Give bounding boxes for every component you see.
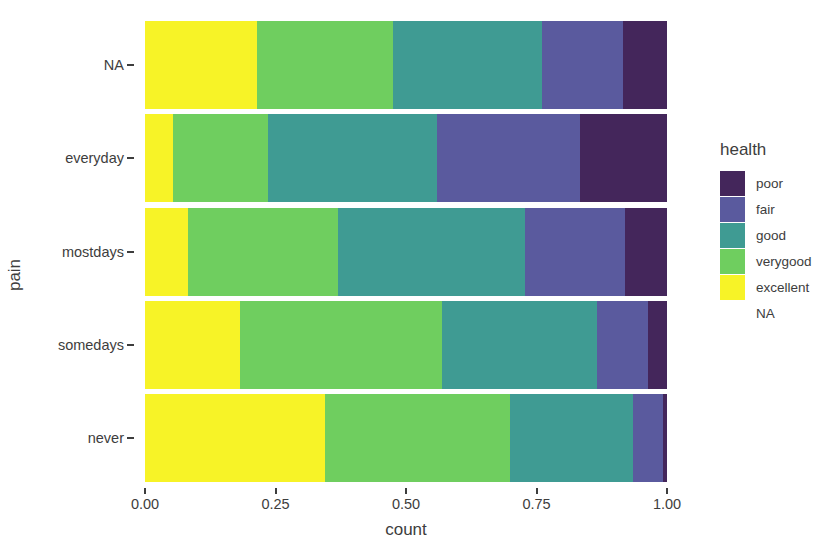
legend-item-good[interactable]: good (700, 222, 825, 248)
bar-segment-good (338, 208, 525, 296)
y-tick-mark (127, 251, 134, 253)
legend-title: health (720, 140, 825, 160)
bar-segment-verygood (240, 301, 442, 389)
legend-items: poorfairgoodverygoodexcellentNA (700, 170, 825, 326)
y-tick-mark (127, 344, 134, 346)
bar-segment-good (393, 21, 542, 109)
bar-segment-good (268, 114, 437, 202)
legend-label-na: NA (756, 306, 775, 321)
y-tick-mark (127, 437, 134, 439)
stacked-bar-na (145, 21, 667, 109)
x-tick-label: 1.00 (653, 496, 681, 512)
bar-segment-poor (648, 301, 667, 389)
bar-segment-fair (542, 21, 623, 109)
legend-label-poor: poor (756, 176, 783, 191)
chart-figure: pain NAeverydaymostdayssomedaysnever 0.0… (0, 0, 829, 550)
x-tick-mark (536, 488, 538, 494)
bar-segment-excellent (145, 114, 173, 202)
bar-segment-fair (437, 114, 580, 202)
y-tick-label-na: NA (104, 57, 124, 73)
bar-segment-excellent (145, 208, 188, 296)
bar-segment-poor (623, 21, 667, 109)
legend-swatch-na (720, 301, 745, 326)
bar-segment-fair (633, 394, 663, 482)
legend-label-excellent: excellent (756, 280, 809, 295)
bar-segment-excellent (145, 301, 240, 389)
legend: health poorfairgoodverygoodexcellentNA (700, 140, 825, 326)
legend-label-fair: fair (756, 202, 775, 217)
y-axis-tick-labels: NAeverydaymostdayssomedaysnever (28, 18, 134, 485)
x-tick-label: 0.75 (522, 496, 550, 512)
x-tick-mark (275, 488, 277, 494)
x-tick-label: 0.00 (131, 496, 159, 512)
legend-swatch-fair (720, 197, 745, 222)
bar-segment-good (510, 394, 633, 482)
bar-segment-excellent (145, 21, 257, 109)
legend-item-poor[interactable]: poor (700, 170, 825, 196)
bar-segment-poor (580, 114, 667, 202)
x-tick-mark (405, 488, 407, 494)
bar-segment-verygood (257, 21, 393, 109)
x-axis: 0.000.250.500.751.00 (145, 485, 667, 525)
legend-swatch-poor (720, 171, 745, 196)
bar-segment-fair (597, 301, 648, 389)
bar-segment-verygood (173, 114, 268, 202)
legend-swatch-verygood (720, 249, 745, 274)
x-axis-title: count (145, 520, 667, 540)
legend-item-fair[interactable]: fair (700, 196, 825, 222)
stacked-bar-mostdays (145, 208, 667, 296)
x-tick-mark (144, 488, 146, 494)
bar-segment-excellent (145, 394, 325, 482)
y-tick-label-somedays: somedays (58, 337, 124, 353)
bar-segment-verygood (188, 208, 338, 296)
legend-label-good: good (756, 228, 786, 243)
bar-segment-poor (625, 208, 667, 296)
y-tick-label-mostdays: mostdays (62, 244, 124, 260)
y-axis-title: pain (2, 0, 28, 550)
x-tick-mark (666, 488, 668, 494)
stacked-bar-never (145, 394, 667, 482)
x-tick-label: 0.25 (261, 496, 289, 512)
bar-segment-poor (663, 394, 667, 482)
legend-item-excellent[interactable]: excellent (700, 274, 825, 300)
legend-swatch-excellent (720, 275, 745, 300)
bar-segment-good (442, 301, 597, 389)
legend-swatch-good (720, 223, 745, 248)
stacked-bar-everyday (145, 114, 667, 202)
legend-label-verygood: verygood (756, 254, 812, 269)
y-tick-label-everyday: everyday (65, 150, 124, 166)
plot-panel (145, 18, 667, 485)
y-axis-title-text: pain (5, 259, 25, 291)
stacked-bar-somedays (145, 301, 667, 389)
legend-item-na[interactable]: NA (700, 300, 825, 326)
bar-segment-verygood (325, 394, 510, 482)
x-tick-label: 0.50 (392, 496, 420, 512)
bar-segment-fair (525, 208, 625, 296)
y-tick-mark (127, 157, 134, 159)
y-tick-label-never: never (88, 430, 124, 446)
legend-item-verygood[interactable]: verygood (700, 248, 825, 274)
y-tick-mark (127, 64, 134, 66)
